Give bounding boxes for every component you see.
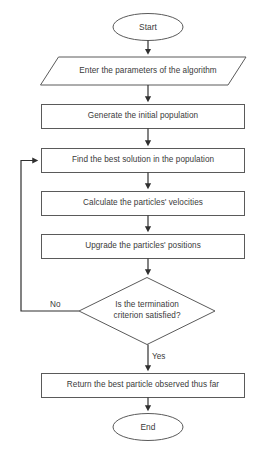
termination-check-node-label-line2: criterion satisfied? (89, 311, 205, 322)
input-parameters-node-label: Enter the parameters of the algorithm (43, 66, 253, 77)
calculate-velocities-node-label: Calculate the particles' velocities (41, 198, 245, 209)
generate-population-node-label: Generate the initial population (41, 111, 245, 122)
find-best-solution-node-label: Find the best solution in the population (41, 155, 245, 166)
flowchart-canvas: Start Enter the parameters of the algori… (0, 0, 266, 453)
end-node-label: End (113, 422, 183, 433)
upgrade-positions-node-label: Upgrade the particles' positions (41, 241, 245, 252)
termination-check-node-label-line1: Is the termination (89, 300, 205, 311)
return-best-node-label: Return the best particle observed thus f… (41, 380, 245, 391)
yes-branch-label: Yes (152, 352, 165, 362)
start-node-label: Start (113, 22, 183, 33)
no-branch-label: No (50, 300, 60, 310)
